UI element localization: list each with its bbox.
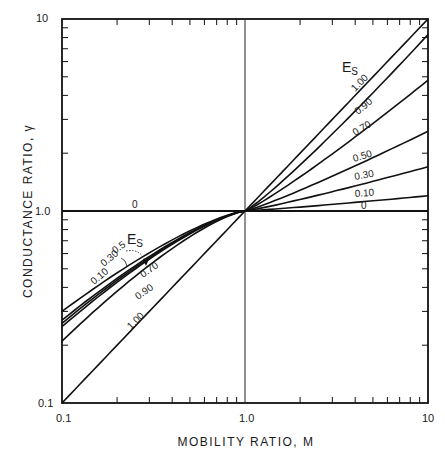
y-axis-title: CONDUCTANCE RATIO, γ xyxy=(21,124,35,298)
y-tick-10: 10 xyxy=(36,12,48,24)
label-right-0: 0 xyxy=(361,200,367,211)
y-tick-1: 1.0 xyxy=(35,205,50,217)
legend-title-lower: ES xyxy=(127,231,143,249)
label-right-0-10: 0.10 xyxy=(354,187,375,199)
label-es-0-left: 0 xyxy=(132,199,138,210)
x-tick-1: 1.0 xyxy=(239,412,254,424)
label-right-0-50: 0.50 xyxy=(351,148,373,164)
label-right-0-30: 0.30 xyxy=(353,168,375,182)
label-left-0-10: 0.10 xyxy=(88,265,110,286)
es-arrow-short xyxy=(121,258,127,266)
y-tick-0-1: 0.1 xyxy=(38,397,53,409)
label-left-1-00: 1.00 xyxy=(125,310,147,332)
x-axis-title: MOBILITY RATIO, M xyxy=(177,435,314,449)
conductance-ratio-chart: 10 1.0 0.1 0.1 1.0 10 MOBILITY RATIO, M … xyxy=(0,0,445,462)
legend-title-upper: ES xyxy=(342,59,358,77)
label-right-0-70: 0.70 xyxy=(351,118,374,137)
x-tick-10: 10 xyxy=(422,412,434,424)
x-tick-0-1: 0.1 xyxy=(56,412,71,424)
label-right-0-90: 0.90 xyxy=(352,95,374,116)
label-left-0-90: 0.90 xyxy=(133,281,156,301)
